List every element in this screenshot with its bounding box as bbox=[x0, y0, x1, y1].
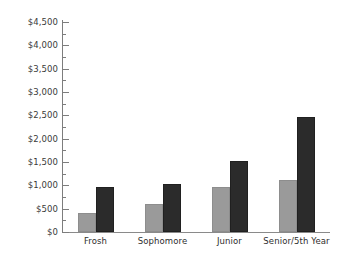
y-tick-major bbox=[62, 115, 69, 116]
y-tick-label: $4,500 bbox=[2, 17, 58, 27]
y-tick-major bbox=[62, 185, 69, 186]
y-tick-label: $1,000 bbox=[2, 180, 58, 190]
bar-series-b-sophomore bbox=[163, 184, 181, 232]
y-tick-label: $2,500 bbox=[2, 110, 58, 120]
x-tick-label: Sophomore bbox=[129, 236, 196, 246]
x-tick-label: Junior bbox=[196, 236, 263, 246]
y-tick-minor bbox=[62, 197, 66, 198]
y-tick-minor bbox=[62, 174, 66, 175]
x-tick-label: Senior/5th Year bbox=[263, 236, 330, 246]
y-tick-major bbox=[62, 139, 69, 140]
y-tick-label: $3,000 bbox=[2, 87, 58, 97]
x-axis-line bbox=[62, 232, 330, 233]
bar-series-a-sophomore bbox=[145, 204, 163, 232]
bar-series-a-junior bbox=[212, 187, 230, 232]
bar-series-a-senior-5th-year bbox=[279, 180, 297, 232]
y-tick-label: $4,000 bbox=[2, 40, 58, 50]
y-tick-label: $2,000 bbox=[2, 134, 58, 144]
bar-series-b-junior bbox=[230, 161, 248, 232]
x-tick-label: Frosh bbox=[62, 236, 129, 246]
y-tick-minor bbox=[62, 80, 66, 81]
y-tick-major bbox=[62, 45, 69, 46]
y-tick-minor bbox=[62, 127, 66, 128]
y-tick-minor bbox=[62, 150, 66, 151]
bar-series-b-frosh bbox=[96, 187, 114, 232]
y-tick-major bbox=[62, 69, 69, 70]
y-tick-major bbox=[62, 162, 69, 163]
y-tick-minor bbox=[62, 104, 66, 105]
y-tick-major bbox=[62, 232, 69, 233]
bar-series-b-senior-5th-year bbox=[297, 117, 315, 232]
y-tick-major bbox=[62, 209, 69, 210]
y-tick-minor bbox=[62, 220, 66, 221]
bar-chart: $4,500$4,000$3,500$3,000$2,500$2,000$1,5… bbox=[0, 0, 343, 268]
y-tick-minor bbox=[62, 57, 66, 58]
y-tick-label: $0 bbox=[2, 227, 58, 237]
bar-series-a-frosh bbox=[78, 213, 96, 232]
y-tick-label: $500 bbox=[2, 204, 58, 214]
y-tick-major bbox=[62, 92, 69, 93]
y-tick-label: $3,500 bbox=[2, 64, 58, 74]
y-tick-label: $1,500 bbox=[2, 157, 58, 167]
y-tick-major bbox=[62, 22, 69, 23]
y-tick-minor bbox=[62, 34, 66, 35]
